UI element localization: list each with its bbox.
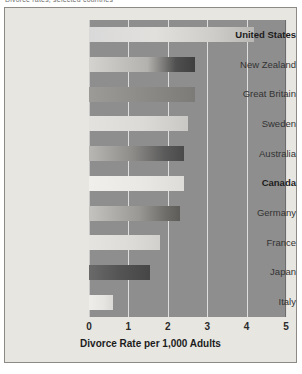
x-tick-0: 0	[79, 321, 99, 332]
bar-new-zealand	[89, 57, 195, 72]
bar-france	[89, 235, 160, 250]
x-axis-title: Divorce Rate per 1,000 Adults	[5, 338, 296, 349]
x-tick-1: 1	[118, 321, 138, 332]
x-tick-4: 4	[237, 321, 257, 332]
bar-sweden	[89, 116, 188, 131]
bar-canada	[89, 176, 184, 191]
bar-japan	[89, 265, 150, 280]
x-tick-2: 2	[158, 321, 178, 332]
chart-figure: United StatesNew ZealandGreat BritainSwe…	[4, 7, 297, 363]
y-label-great-britain: Great Britain	[216, 88, 296, 99]
bar-germany	[89, 206, 180, 221]
y-label-italy: Italy	[216, 296, 296, 307]
x-tick-3: 3	[197, 321, 217, 332]
x-tick-5: 5	[276, 321, 296, 332]
y-label-canada: Canada	[216, 177, 296, 188]
y-label-new-zealand: New Zealand	[216, 59, 296, 70]
bar-australia	[89, 146, 184, 161]
y-label-germany: Germany	[216, 207, 296, 218]
y-label-sweden: Sweden	[216, 118, 296, 129]
y-label-france: France	[216, 237, 296, 248]
clipped-caption: Divorce rates, selected countries	[5, 0, 113, 4]
y-label-japan: Japan	[216, 266, 296, 277]
bar-great-britain	[89, 87, 195, 102]
y-label-australia: Australia	[216, 148, 296, 159]
y-label-united-states: United States	[216, 29, 296, 40]
bar-italy	[89, 295, 113, 310]
